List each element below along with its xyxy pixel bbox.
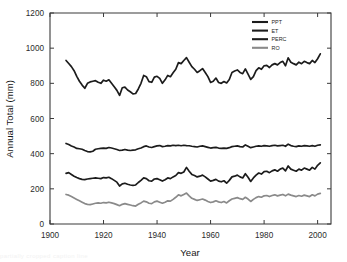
y-tick-label: 1200: [26, 9, 45, 18]
y-tick-label: 400: [30, 150, 44, 159]
cropped-caption-row: partially cropped caption line: [0, 253, 347, 262]
y-tick-label: 600: [30, 115, 44, 124]
legend-label-ro: RO: [272, 45, 280, 51]
legend-label-ppt: PPT: [272, 19, 283, 25]
legend-label-perc: PERC: [272, 36, 287, 42]
x-tick-label: 1960: [201, 231, 220, 240]
x-tick-label: 1900: [41, 231, 60, 240]
line-chart: 020040060080010001200 190019201940196019…: [0, 0, 347, 262]
x-tick-label: 1980: [255, 231, 274, 240]
x-tick-label: 1920: [94, 231, 113, 240]
x-tick-label: 2000: [309, 231, 328, 240]
y-axis-title: Annual Total (mm): [4, 80, 15, 158]
legend-label-et: ET: [272, 28, 280, 34]
x-tick-label: 1940: [148, 231, 167, 240]
y-tick-label: 1000: [26, 44, 45, 53]
y-tick-label: 0: [39, 220, 44, 229]
y-tick-label: 800: [30, 79, 44, 88]
y-tick-label: 200: [30, 185, 44, 194]
chart-background: [0, 0, 347, 262]
figure-container: 020040060080010001200 190019201940196019…: [0, 0, 347, 262]
